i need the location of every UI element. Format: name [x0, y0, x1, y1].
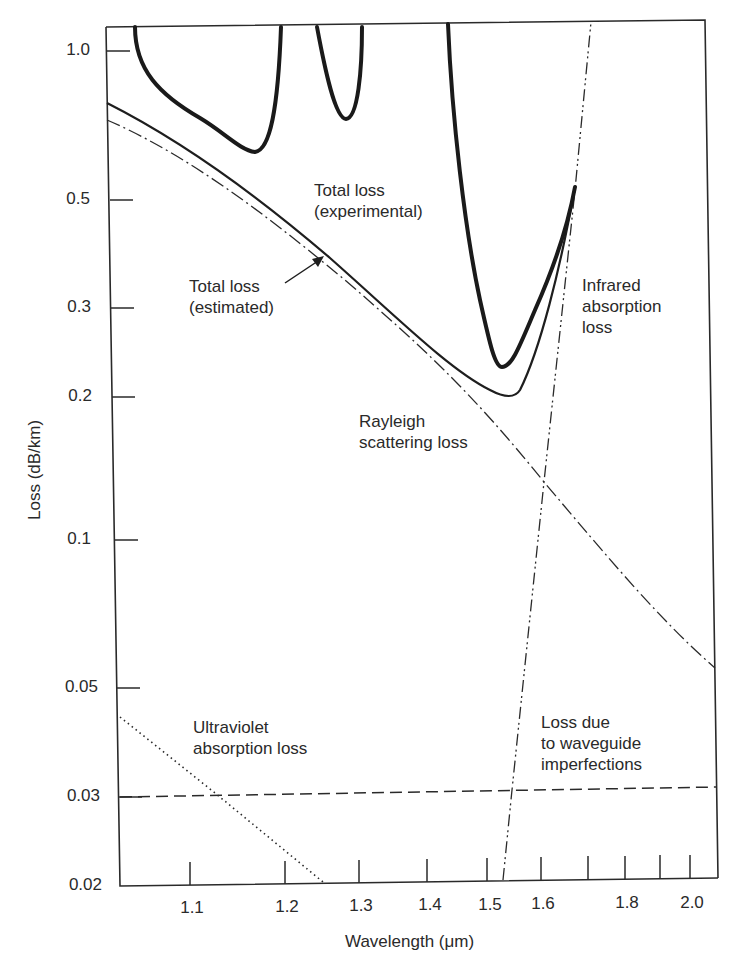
label-line: Loss due [541, 712, 642, 733]
y-tick-label: 0.5 [30, 189, 90, 209]
total-loss-experimental-curve [135, 27, 281, 152]
x-tick-label: 1.5 [470, 895, 510, 915]
label-line: absorption [582, 296, 661, 317]
x-tick-label: 1.2 [267, 897, 307, 917]
total-loss-estimated-curve [107, 103, 575, 396]
estimated-label-arrow [285, 256, 324, 283]
loss-chart [0, 0, 741, 973]
label-line: scattering loss [359, 432, 468, 453]
waveguide-loss-curve [120, 787, 716, 797]
y-tick-label: 1.0 [30, 40, 90, 60]
label-total-loss-experimental: Total loss (experimental) [314, 180, 423, 222]
x-tick-label: 1.3 [341, 896, 381, 916]
label-line: (experimental) [314, 201, 423, 222]
label-line: Infrared [582, 275, 661, 296]
label-ultraviolet-absorption: Ultraviolet absorption loss [193, 717, 307, 759]
label-line: absorption loss [193, 738, 307, 759]
y-tick-label: 0.05 [38, 677, 98, 697]
label-line: to waveguide [541, 733, 642, 754]
label-total-loss-estimated: Total loss (estimated) [189, 276, 274, 318]
y-tick-label: 0.1 [31, 529, 91, 549]
y-tick-label: 0.02 [42, 875, 102, 895]
x-tick-label: 1.8 [607, 893, 647, 913]
x-tick-label: 1.6 [523, 894, 563, 914]
x-tick-label: 1.4 [410, 895, 450, 915]
y-tick-label: 0.2 [32, 386, 92, 406]
label-line: (estimated) [189, 297, 274, 318]
y-tick-label: 0.3 [31, 297, 91, 317]
label-line: loss [582, 317, 661, 338]
y-tick-label: 0.03 [40, 786, 100, 806]
label-line: imperfections [541, 754, 642, 775]
y-axis-title: Loss (dB/km) [25, 420, 45, 520]
label-infrared-absorption: Infrared absorption loss [582, 275, 661, 338]
total-loss-experimental-water-peak [317, 27, 362, 119]
total-loss-experimental-dip [448, 24, 575, 367]
label-line: Ultraviolet [193, 717, 307, 738]
label-line: Total loss [189, 276, 274, 297]
x-axis-title: Wavelength (μm) [345, 932, 474, 952]
label-line: Rayleigh [359, 411, 468, 432]
x-tick-label: 2.0 [672, 893, 712, 913]
x-tick-label: 1.1 [172, 898, 212, 918]
label-waveguide-imperfections: Loss due to waveguide imperfections [541, 712, 642, 775]
label-line: Total loss [314, 180, 423, 201]
x-axis-ticks [190, 855, 690, 885]
label-rayleigh-scattering: Rayleigh scattering loss [359, 411, 468, 453]
